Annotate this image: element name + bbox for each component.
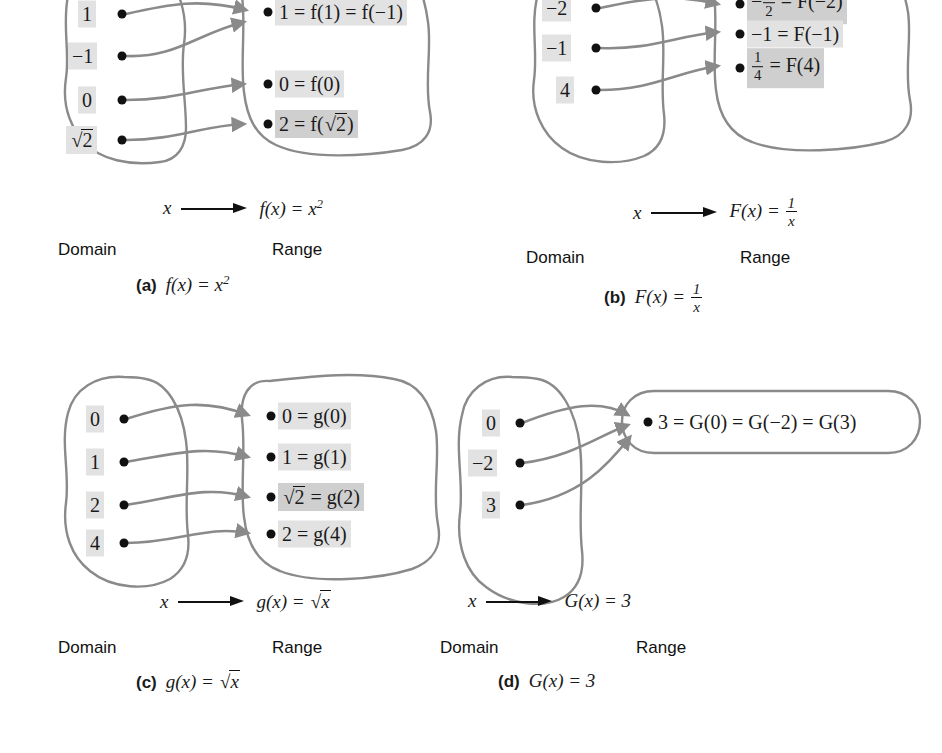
map-expression-b: F(x) = 1x	[729, 196, 798, 229]
range-caption-d: Range	[636, 638, 686, 658]
range-dot-b-2	[736, 64, 745, 73]
map-expression-a: f(x) = x2	[259, 196, 323, 220]
range-dot-b-1	[736, 30, 745, 39]
range-value-d-0: 3 = G(0) = G(−2) = G(3)	[654, 409, 860, 436]
domain-value-a-3: √2	[66, 126, 97, 154]
map-variable-b: x	[633, 202, 647, 224]
domain-dot-d-2	[516, 501, 525, 510]
arrow-right-icon	[486, 596, 554, 607]
domain-value-c-2: 2	[86, 492, 104, 519]
mapping-row-a: x f(x) = x2	[163, 196, 323, 220]
domain-value-c-0: 0	[86, 406, 104, 433]
panel-formula-b: F(x) = 1x	[635, 282, 704, 315]
domain-caption-a: Domain	[58, 240, 117, 260]
range-value-b-1: −1 = F(−1)	[747, 21, 843, 48]
domain-value-c-1: 1	[86, 449, 104, 476]
domain-dot-b-1	[592, 44, 601, 53]
map-expression-c: g(x) = √x	[256, 590, 330, 613]
domain-dot-b-0	[592, 4, 601, 13]
sqrt-icon: √2	[70, 129, 93, 150]
panel-tag-c: (c)	[136, 673, 157, 693]
panel-tag-d: (d)	[498, 672, 520, 692]
range-dot-c-2	[267, 493, 276, 502]
domain-value-b-2: 4	[556, 77, 574, 104]
mapping-row-c: x g(x) = √x	[160, 590, 331, 613]
domain-value-b-1: −1	[542, 35, 571, 62]
arrow-right-icon	[181, 203, 249, 214]
panel-b: −2 −1 4 −12 = F(−2) −1 = F(−1) 14 = F(4)…	[470, 0, 942, 310]
domain-dot-c-0	[120, 415, 129, 424]
domain-dot-a-1	[118, 52, 127, 61]
domain-value-b-0: −2	[542, 0, 571, 22]
domain-dot-c-2	[120, 501, 129, 510]
sqrt-icon: √2	[282, 486, 305, 507]
domain-value-d-1: −2	[468, 450, 497, 477]
range-dot-a-1	[264, 80, 273, 89]
domain-value-d-2: 3	[482, 492, 500, 519]
range-value-c-2: √2 = g(2)	[278, 483, 364, 511]
domain-region-b	[533, 0, 664, 162]
arrow-right-icon	[651, 207, 719, 218]
range-dot-a-0	[264, 8, 273, 17]
range-value-c-3: 2 = g(4)	[278, 521, 351, 548]
mapping-row-b: x F(x) = 1x	[633, 196, 798, 229]
panel-tag-a: (a)	[136, 276, 157, 296]
domain-dot-a-0	[118, 10, 127, 19]
figure-page: { "figure": { "title": "Function mapping…	[0, 0, 942, 753]
map-variable-c: x	[160, 591, 174, 613]
map-expression-d: G(x) = 3	[564, 590, 631, 612]
domain-value-c-3: 4	[86, 530, 104, 557]
domain-dot-b-2	[592, 86, 601, 95]
panel-d: 0 −2 3 3 = G(0) = G(−2) = G(3) x G(x) = …	[440, 365, 942, 695]
arrow-right-icon	[178, 596, 246, 607]
range-value-c-0: 0 = g(0)	[278, 403, 351, 430]
domain-caption-b: Domain	[526, 248, 585, 268]
range-value-a-2: 2 = f(√2)	[275, 110, 358, 138]
fraction-one-half: 12	[763, 0, 774, 19]
panel-caption-a: (a) f(x) = x2	[136, 272, 229, 296]
range-dot-b-0	[736, 0, 745, 9]
mapping-curves-d	[522, 406, 630, 505]
range-value-a-1: 0 = f(0)	[275, 71, 344, 98]
range-dot-c-0	[267, 412, 276, 421]
range-caption-b: Range	[740, 248, 790, 268]
domain-value-a-0: 1	[78, 1, 96, 28]
fraction-one-quarter: 14	[752, 50, 763, 83]
domain-dot-c-3	[120, 539, 129, 548]
domain-value-a-2: 0	[78, 87, 96, 114]
range-value-b-2: 14 = F(4)	[747, 48, 824, 88]
panel-caption-c: (c) g(x) = √x	[136, 670, 240, 693]
map-variable-a: x	[163, 197, 177, 219]
range-dot-c-1	[267, 453, 276, 462]
domain-dot-c-1	[120, 458, 129, 467]
range-caption-a: Range	[272, 240, 322, 260]
range-caption-c: Range	[272, 638, 322, 658]
domain-dot-d-1	[516, 459, 525, 468]
mapping-row-d: x G(x) = 3	[468, 590, 631, 612]
range-dot-d-0	[644, 418, 653, 427]
domain-dot-a-3	[118, 136, 127, 145]
panel-formula-c: g(x) = √x	[166, 670, 240, 693]
range-dot-c-3	[267, 530, 276, 539]
range-value-c-1: 1 = g(1)	[278, 444, 351, 471]
range-dot-a-2	[264, 120, 273, 129]
domain-region-d	[459, 377, 583, 604]
panel-tag-b: (b)	[604, 288, 626, 308]
panel-c: 0 1 2 4 0 = g(0) 1 = g(1) √2 = g(2) 2 = …	[0, 365, 470, 695]
panel-a: 1 −1 0 √2 1 = f(1) = f(−1) 0 = f(0) 2 = …	[0, 0, 470, 300]
domain-caption-d: Domain	[440, 638, 499, 658]
panel-formula-a: f(x) = x2	[166, 272, 230, 296]
sqrt-icon: √2	[324, 113, 347, 134]
domain-dot-a-2	[118, 96, 127, 105]
domain-value-d-0: 0	[482, 410, 500, 437]
domain-value-a-1: −1	[68, 43, 97, 70]
range-value-a-0: 1 = f(1) = f(−1)	[275, 0, 407, 26]
panel-caption-d: (d) G(x) = 3	[498, 670, 595, 692]
domain-dot-d-0	[516, 419, 525, 428]
domain-caption-c: Domain	[58, 638, 117, 658]
panel-caption-b: (b) F(x) = 1x	[604, 282, 703, 315]
panel-formula-d: G(x) = 3	[529, 670, 596, 692]
map-variable-d: x	[468, 590, 482, 612]
